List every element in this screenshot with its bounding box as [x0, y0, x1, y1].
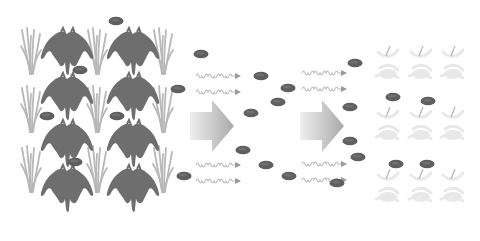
bacterium-icon [236, 146, 251, 155]
wave-arrow-icon [196, 90, 240, 94]
dead-plant-icon [409, 169, 431, 202]
bacterium-icon [271, 98, 286, 107]
bacterium-icon [420, 160, 435, 169]
bacterium-icon [281, 84, 296, 93]
bacterium-icon [171, 85, 186, 94]
bacterium-icon [254, 72, 269, 81]
wave-arrow-icon [196, 74, 240, 78]
bacterium-icon [351, 153, 366, 162]
bacterium-icon [110, 112, 125, 121]
bacterium-icon [421, 97, 436, 106]
plant-icon [107, 28, 159, 75]
progression-arrow-icon [190, 100, 234, 152]
bacterium-icon [177, 172, 192, 181]
plant-icon [107, 165, 159, 212]
progression-arrow-group [190, 100, 344, 152]
bacterium-icon [348, 59, 363, 68]
grass-icon [21, 86, 41, 132]
bacterium-icon [244, 109, 259, 118]
bacterium-icon [282, 172, 297, 181]
dead-plant-icon [409, 46, 431, 79]
bacterium-icon [40, 112, 55, 121]
bacterium-icon [68, 158, 83, 167]
bacterium-icon [386, 93, 401, 102]
plant-icon [41, 120, 93, 167]
dead-plant-icon [376, 107, 398, 140]
plant-icon [107, 120, 159, 167]
wave-arrow-icon [302, 162, 346, 166]
dead-plant-icon [376, 46, 398, 79]
bacterium-icon [259, 161, 274, 170]
diagram-svg [0, 0, 480, 241]
wave-arrow-icon [302, 87, 346, 91]
dead-plant-icon [441, 107, 463, 140]
grass-icon [21, 28, 41, 74]
dead-plant-icon [441, 169, 463, 202]
dead-plant-icon [376, 169, 398, 202]
wave-arrow-icon [196, 179, 240, 183]
plant-icon [41, 165, 93, 212]
dead-plant-icon [409, 107, 431, 140]
bacterium-icon [330, 179, 345, 188]
bacterium-icon [109, 17, 124, 26]
bacterium-icon [343, 103, 358, 112]
bacterium-icon [194, 50, 209, 59]
bacterium-icon [389, 160, 404, 169]
diseased-plant-group [376, 46, 463, 202]
wave-arrow-icon [302, 71, 346, 75]
diagram-canvas [0, 0, 480, 241]
bacterium-icon [73, 66, 88, 75]
bacterium-icon [343, 137, 358, 146]
progression-arrow-icon [300, 100, 344, 152]
wave-arrow-icon [196, 163, 240, 167]
grass-icon [21, 146, 41, 192]
dead-plant-icon [441, 46, 463, 79]
